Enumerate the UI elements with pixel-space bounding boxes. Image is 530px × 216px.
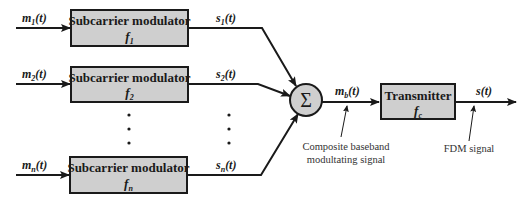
output-label-2: s2(t) bbox=[215, 67, 236, 83]
output-label-1: s1(t) bbox=[215, 11, 236, 27]
input-label-1: m1(t) bbox=[22, 11, 47, 27]
modulator-title-2: Subcarrier modulator bbox=[68, 70, 190, 85]
composite-caption-line2: modultating signal bbox=[307, 154, 386, 165]
modulator-n: mn(t) Subcarrier modulator fn sn(t) bbox=[16, 114, 298, 193]
fdm-pointer-arrow bbox=[469, 106, 474, 141]
output-line-2 bbox=[188, 84, 290, 96]
output-label-n: sn(t) bbox=[215, 158, 236, 174]
input-label-n: mn(t) bbox=[22, 158, 47, 174]
composite-caption-line1: Composite baseband bbox=[302, 141, 390, 152]
output-label: s(t) bbox=[475, 84, 492, 98]
modulator-title-n: Subcarrier modulator bbox=[67, 160, 189, 175]
transmitter-title: Transmitter bbox=[385, 88, 452, 103]
composite-pointer-arrow bbox=[341, 106, 347, 137]
ellipsis-modulators bbox=[127, 113, 130, 144]
input-label-2: m2(t) bbox=[22, 67, 47, 83]
output-line-1 bbox=[188, 28, 296, 86]
fdm-caption: FDM signal bbox=[444, 143, 495, 154]
output-line-n bbox=[187, 114, 298, 175]
sigma-icon: Σ bbox=[300, 89, 312, 111]
summer-node: Σ bbox=[290, 84, 322, 116]
composite-label: mb(t) bbox=[335, 84, 360, 100]
transmitter: Transmitter fc bbox=[381, 84, 455, 120]
fdm-block-diagram: m1(t) Subcarrier modulator f1 s1(t) m2(t… bbox=[0, 0, 530, 216]
modulator-title-1: Subcarrier modulator bbox=[68, 13, 190, 28]
modulator-2: m2(t) Subcarrier modulator f2 s2(t) bbox=[16, 67, 290, 102]
ellipsis-signals bbox=[227, 113, 230, 144]
